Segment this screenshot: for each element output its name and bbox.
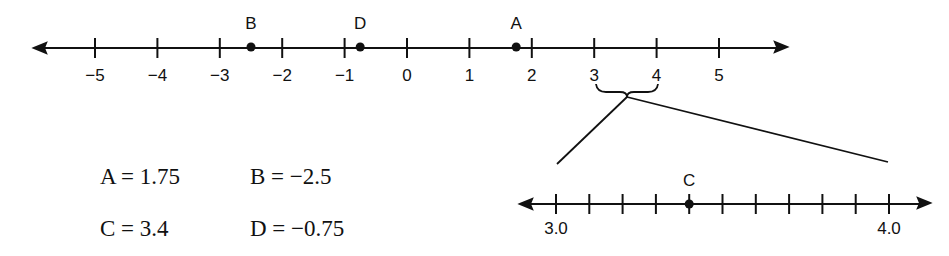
zoom-callout xyxy=(557,84,888,164)
main-tick-label: 5 xyxy=(714,66,723,85)
equation-d: D = −0.75 xyxy=(250,216,344,241)
right-arrow-icon xyxy=(775,42,787,52)
point-label-c: C xyxy=(683,171,695,190)
main-tick-label: 0 xyxy=(402,66,411,85)
main-tick-label: 1 xyxy=(465,66,474,85)
zoom-number-line xyxy=(520,198,930,209)
main-tick-label: −2 xyxy=(273,66,292,85)
point-c xyxy=(685,200,694,209)
callout-line-left xyxy=(557,97,627,164)
main-points: BDA xyxy=(245,14,522,52)
main-tick-label: −3 xyxy=(210,66,229,85)
main-tick-label: −5 xyxy=(85,66,104,85)
main-ticks: −5−4−3−2−1012345 xyxy=(85,38,723,85)
equation-a: A = 1.75 xyxy=(100,164,180,189)
point-label-a: A xyxy=(511,14,523,33)
main-tick-label: −1 xyxy=(335,66,354,85)
main-tick-label: 3 xyxy=(589,66,598,85)
point-b xyxy=(247,43,256,52)
callout-line-right xyxy=(627,97,888,162)
zoom-start-label: 3.0 xyxy=(544,219,568,238)
left-arrow-icon xyxy=(34,43,46,53)
value-equations: A = 1.75 B = −2.5 C = 3.4 D = −0.75 xyxy=(100,164,344,241)
zoom-points: C xyxy=(683,171,695,209)
main-tick-label: −4 xyxy=(148,66,167,85)
main-tick-label: 2 xyxy=(527,66,536,85)
left-arrow-icon xyxy=(520,199,532,209)
brace xyxy=(596,84,658,97)
equation-c: C = 3.4 xyxy=(100,216,169,241)
main-tick-label: 4 xyxy=(652,66,661,85)
zoom-end-label: 4.0 xyxy=(877,219,901,238)
right-arrow-icon xyxy=(918,198,930,208)
equation-b: B = −2.5 xyxy=(250,164,332,189)
point-a xyxy=(512,43,521,52)
point-label-d: D xyxy=(354,14,366,33)
main-number-line xyxy=(34,42,787,53)
point-d xyxy=(356,43,365,52)
number-line-diagram: −5−4−3−2−1012345 BDA 3.0 4.0 C A = 1.75 … xyxy=(0,0,949,256)
point-label-b: B xyxy=(245,14,256,33)
